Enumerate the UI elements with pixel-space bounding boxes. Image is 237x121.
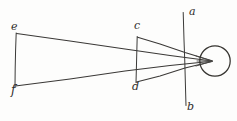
- line-ab: [183, 13, 186, 106]
- ray-f-to-focus: [15, 61, 212, 86]
- diagram-canvas: [0, 0, 237, 121]
- label-f: f: [11, 84, 15, 96]
- segment-ef: [15, 33, 16, 87]
- label-b: b: [187, 101, 194, 112]
- label-a: a: [189, 6, 196, 17]
- optical-ray-diagram: a b c d e f: [0, 0, 237, 121]
- segment-cd: [136, 37, 137, 83]
- label-e: e: [11, 21, 18, 32]
- label-d: d: [132, 81, 139, 92]
- label-c: c: [134, 20, 140, 31]
- ray-e-to-focus: [17, 34, 212, 61]
